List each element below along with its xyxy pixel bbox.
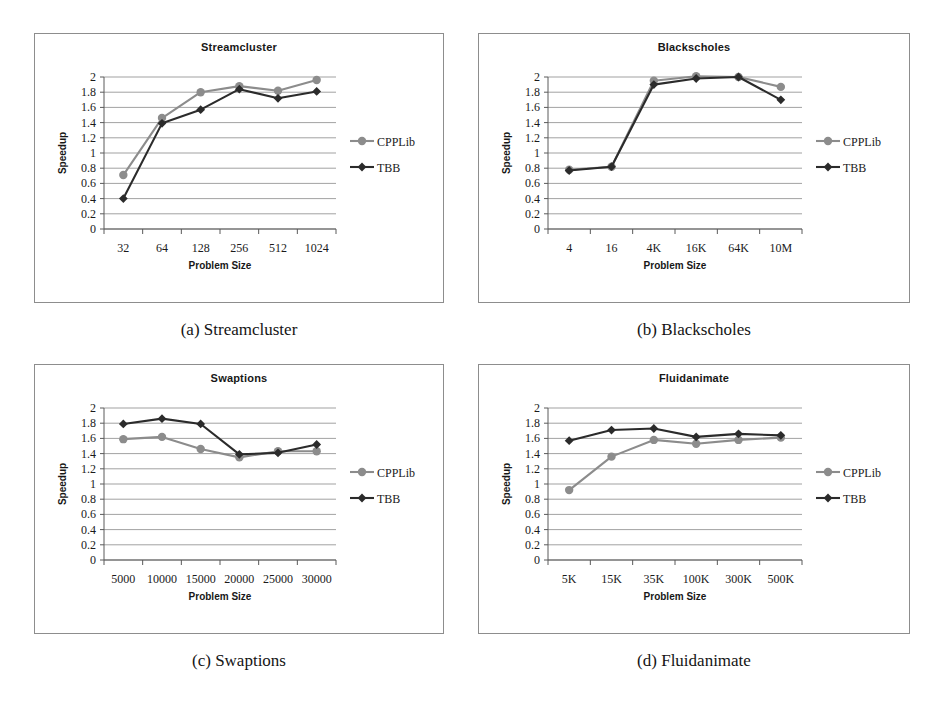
data-point-cpplib [196, 88, 204, 96]
y-tick-label: 1.4 [81, 116, 96, 130]
y-tick-label: 0 [90, 222, 96, 236]
x-tick-label: 10M [769, 241, 792, 255]
line-chart-svg: 00.20.40.60.811.21.41.61.825000100001500… [34, 364, 444, 634]
plot-area: 00.20.40.60.811.21.41.61.824164K16K64K10… [478, 33, 910, 303]
x-tick-label: 20000 [224, 572, 254, 586]
y-tick-label: 0.4 [525, 523, 540, 537]
line-chart-svg: 00.20.40.60.811.21.41.61.823264128256512… [34, 33, 444, 303]
y-tick-label: 0.2 [525, 207, 540, 221]
legend-label-tbb: TBB [843, 161, 866, 175]
y-tick-label: 0.4 [81, 523, 96, 537]
legend-marker-cpplib [358, 137, 366, 145]
y-tick-label: 1.2 [81, 462, 96, 476]
legend-marker-cpplib [824, 137, 832, 145]
y-tick-label: 2 [90, 401, 96, 415]
series-line-cpplib [123, 80, 316, 175]
y-tick-label: 0.2 [81, 538, 96, 552]
y-axis-title: Speedup [501, 132, 512, 174]
y-tick-label: 0.8 [525, 161, 540, 175]
y-tick-label: 0.8 [525, 492, 540, 506]
y-tick-label: 1.8 [525, 85, 540, 99]
data-point-cpplib [777, 83, 785, 91]
data-point-tbb [692, 432, 701, 441]
legend-label-tbb: TBB [843, 492, 866, 506]
y-tick-label: 2 [534, 401, 540, 415]
data-point-tbb [274, 94, 283, 103]
chart-panel-fluidanimate: Fluidanimate 00.20.40.60.811.21.41.61.82… [478, 364, 910, 634]
y-tick-label: 0.6 [81, 176, 96, 190]
y-tick-label: 1.6 [81, 100, 96, 114]
data-point-cpplib [607, 452, 615, 460]
x-tick-label: 30000 [302, 572, 332, 586]
legend-marker-cpplib [824, 468, 832, 476]
y-tick-label: 0.4 [525, 192, 540, 206]
data-point-tbb [734, 429, 743, 438]
chart-panel-blackscholes: Blackscholes 00.20.40.60.811.21.41.61.82… [478, 33, 910, 303]
legend-label-tbb: TBB [377, 492, 400, 506]
y-tick-label: 1.2 [81, 131, 96, 145]
y-axis-title: Speedup [501, 463, 512, 505]
y-tick-label: 1.2 [525, 131, 540, 145]
x-axis-title: Problem Size [189, 260, 252, 271]
x-tick-label: 100K [683, 572, 710, 586]
x-tick-label: 16K [686, 241, 707, 255]
y-tick-label: 0.6 [525, 176, 540, 190]
x-tick-label: 25000 [263, 572, 293, 586]
caption-b: (b) Blackscholes [478, 320, 910, 340]
x-tick-label: 15000 [186, 572, 216, 586]
y-tick-label: 1.6 [525, 431, 540, 445]
figure-grid: Streamcluster 00.20.40.60.811.21.41.61.8… [0, 0, 946, 714]
y-tick-label: 0 [534, 553, 540, 567]
x-tick-label: 35K [643, 572, 664, 586]
y-tick-label: 1.6 [81, 431, 96, 445]
x-tick-label: 15K [601, 572, 622, 586]
x-axis-title: Problem Size [644, 591, 707, 602]
caption-d: (d) Fluidanimate [478, 651, 910, 671]
x-axis-title: Problem Size [644, 260, 707, 271]
x-tick-label: 512 [269, 241, 287, 255]
data-point-tbb [607, 162, 616, 171]
series-line-tbb [123, 89, 316, 198]
legend-marker-cpplib [358, 468, 366, 476]
y-tick-label: 1.8 [81, 416, 96, 430]
legend-marker-tbb [824, 163, 833, 172]
data-point-cpplib [312, 76, 320, 84]
data-point-tbb [607, 426, 616, 435]
data-point-tbb [119, 194, 128, 203]
x-tick-label: 256 [230, 241, 248, 255]
x-tick-label: 4K [646, 241, 661, 255]
x-tick-label: 32 [117, 241, 129, 255]
y-tick-label: 1 [534, 477, 540, 491]
y-axis-title: Speedup [57, 132, 68, 174]
caption-c: (c) Swaptions [34, 651, 444, 671]
data-point-cpplib [119, 171, 127, 179]
plot-area: 00.20.40.60.811.21.41.61.825000100001500… [34, 364, 444, 634]
data-point-tbb [776, 95, 785, 104]
data-point-tbb [196, 105, 205, 114]
chart-panel-swaptions: Swaptions 00.20.40.60.811.21.41.61.82500… [34, 364, 444, 634]
chart-panel-streamcluster: Streamcluster 00.20.40.60.811.21.41.61.8… [34, 33, 444, 303]
legend-marker-tbb [358, 163, 367, 172]
y-tick-label: 0.2 [525, 538, 540, 552]
caption-a: (a) Streamcluster [34, 320, 444, 340]
y-tick-label: 2 [90, 70, 96, 84]
x-tick-label: 16 [606, 241, 618, 255]
data-point-cpplib [196, 445, 204, 453]
data-point-tbb [734, 73, 743, 82]
data-point-tbb [565, 436, 574, 445]
x-tick-label: 500K [767, 572, 794, 586]
y-tick-label: 0.6 [81, 507, 96, 521]
chart-content: 00.20.40.60.811.21.41.61.825000100001500… [57, 401, 415, 602]
x-tick-label: 128 [192, 241, 210, 255]
plot-area: 00.20.40.60.811.21.41.61.823264128256512… [34, 33, 444, 303]
x-tick-label: 300K [725, 572, 752, 586]
data-point-tbb [312, 440, 321, 449]
series-line-cpplib [569, 438, 781, 490]
y-tick-label: 1.4 [81, 447, 96, 461]
series-line-tbb [569, 77, 781, 170]
x-tick-label: 10000 [147, 572, 177, 586]
y-tick-label: 1.2 [525, 462, 540, 476]
y-tick-label: 1.4 [525, 116, 540, 130]
legend-label-cpplib: CPPLib [377, 135, 415, 149]
line-chart-svg: 00.20.40.60.811.21.41.61.825K15K35K100K3… [478, 364, 910, 634]
